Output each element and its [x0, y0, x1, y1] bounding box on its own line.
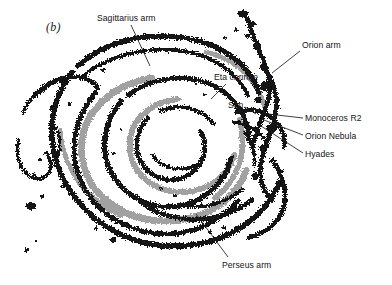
spiral-arms	[18, 18, 285, 246]
label-orion-nebula: Orion Nebula	[305, 131, 356, 141]
leader-orion-arm	[272, 51, 300, 73]
label-eta-carinae: Eta carinae	[214, 72, 258, 82]
label-hyades: Hyades	[305, 149, 334, 159]
label-sagittarius-arm: Sagittarius arm	[97, 13, 156, 23]
label-sun: Sun	[228, 100, 243, 110]
panel-letter: (b)	[46, 20, 61, 35]
label-orion-arm: Orion arm	[302, 40, 341, 50]
leader-sagittarius-arm	[131, 25, 150, 66]
label-monoceros-r2: Monoceros R2	[305, 113, 362, 123]
figure-panel: (b) Sagittarius arm Orion arm Eta carina…	[0, 0, 392, 285]
label-perseus-arm: Perseus arm	[222, 260, 271, 270]
